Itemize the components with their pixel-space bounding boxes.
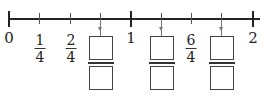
tick-2 bbox=[252, 11, 254, 27]
fraction-1-4: 1 4 bbox=[35, 33, 46, 64]
denominator: 4 bbox=[66, 50, 77, 64]
arrow-up-icon bbox=[98, 27, 102, 31]
fraction-6-4: 6 4 bbox=[186, 33, 197, 64]
tick-1-4 bbox=[39, 13, 40, 24]
number-line-axis bbox=[8, 18, 260, 20]
numerator-box[interactable] bbox=[89, 36, 113, 60]
denominator: 4 bbox=[35, 50, 46, 64]
numerator: 1 bbox=[35, 33, 46, 47]
tick-2-4 bbox=[70, 13, 71, 24]
fraction-bar bbox=[209, 62, 235, 64]
label-2: 2 bbox=[248, 29, 258, 47]
denominator-box[interactable] bbox=[150, 66, 174, 90]
numerator-box[interactable] bbox=[210, 36, 234, 60]
numerator: 2 bbox=[66, 33, 77, 47]
denominator-box[interactable] bbox=[210, 66, 234, 90]
fraction-bar bbox=[149, 62, 175, 64]
denominator: 4 bbox=[186, 50, 197, 64]
denominator-box[interactable] bbox=[89, 66, 113, 90]
fraction-2-4: 2 4 bbox=[66, 33, 77, 64]
tick-1 bbox=[130, 11, 132, 27]
label-0: 0 bbox=[4, 29, 14, 47]
fraction-bar bbox=[88, 62, 114, 64]
numerator: 6 bbox=[186, 33, 197, 47]
tick-6-4 bbox=[191, 13, 192, 24]
label-1: 1 bbox=[126, 29, 136, 47]
arrow-up-icon bbox=[159, 27, 163, 31]
arrow-up-icon bbox=[219, 27, 223, 31]
tick-0 bbox=[8, 11, 10, 27]
numerator-box[interactable] bbox=[150, 36, 174, 60]
